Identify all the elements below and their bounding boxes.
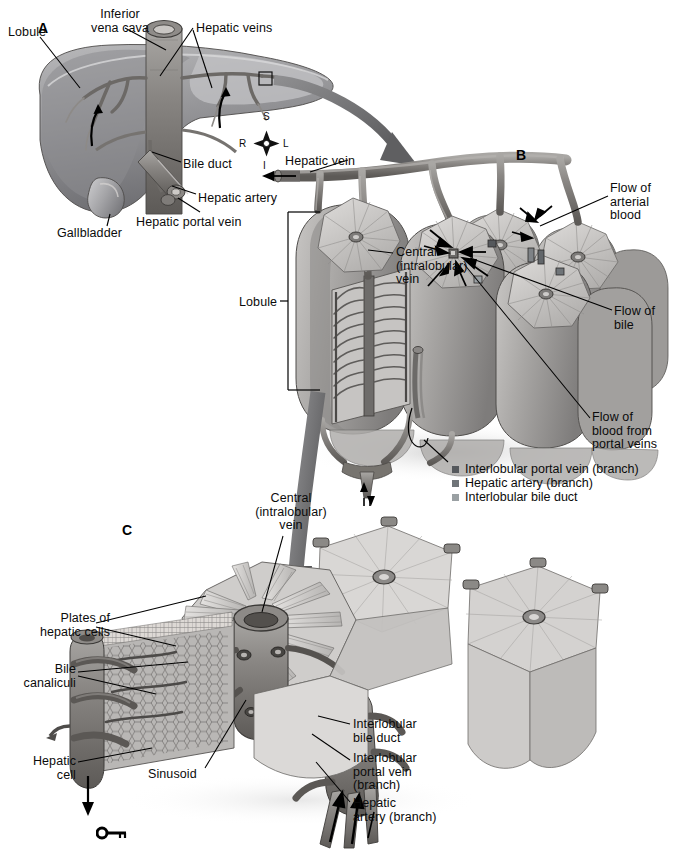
liver-structure-figure: A B C Lobule Inferior vena cava Hepatic … <box>0 0 689 855</box>
label-sinusoid: Sinusoid <box>148 768 197 782</box>
panel-a-liver-illustration <box>39 21 333 227</box>
label-lobule-b: Lobule <box>239 296 277 310</box>
label-flow-of-bile: Flow of bile <box>614 305 655 332</box>
label-hepatic-cell: Hepatic cell <box>0 755 76 782</box>
label-hepatic-artery-branch-c: Hepatic artery (branch) <box>353 797 436 824</box>
orientation-compass <box>254 131 280 157</box>
label-hepatic-vein-b: Hepatic vein <box>285 155 355 169</box>
label-hepatic-portal-vein: Hepatic portal vein <box>136 216 241 230</box>
legend-label-interlobular-portal-vein: Interlobular portal vein (branch) <box>465 462 639 476</box>
label-interlobular-bile-duct-c: Interlobular bile duct <box>353 718 417 745</box>
panel-label-c: C <box>122 522 132 538</box>
label-interlobular-portal-vein-c: Interlobular portal vein (branch) <box>353 752 417 793</box>
compass-left: L <box>283 137 289 151</box>
legend-item-hepatic-artery-branch: Hepatic artery (branch) <box>452 476 639 490</box>
compass-superior: S <box>263 110 270 124</box>
legend-swatch-interlobular-portal-vein <box>452 466 459 473</box>
legend-label-hepatic-artery-branch: Hepatic artery (branch) <box>465 476 593 490</box>
label-plates-of-hepatic-cells: Plates of hepatic cells <box>0 612 110 639</box>
diagram-artwork <box>0 0 689 855</box>
panel-c-lobule-detail-illustration <box>46 517 608 848</box>
vessel-type-legend: Interlobular portal vein (branch) Hepati… <box>452 462 639 504</box>
label-gallbladder: Gallbladder <box>57 227 122 241</box>
label-central-intralobular-vein-c: Central (intralobular) vein <box>243 492 339 533</box>
label-hepatic-artery: Hepatic artery <box>198 192 277 206</box>
compass-right: R <box>239 137 246 151</box>
label-lobule-a: Lobule <box>8 26 46 40</box>
legend-item-interlobular-portal-vein: Interlobular portal vein (branch) <box>452 462 639 476</box>
label-inferior-vena-cava: Inferior vena cava <box>70 8 170 35</box>
key-icon <box>96 826 130 840</box>
legend-item-interlobular-bile-duct: Interlobular bile duct <box>452 490 639 504</box>
label-bile-canaliculi: Bile canaliculi <box>0 663 76 690</box>
label-bile-duct: Bile duct <box>183 158 232 172</box>
legend-swatch-hepatic-artery-branch <box>452 480 459 487</box>
panel-b-lobules-illustration <box>262 155 668 506</box>
label-central-intralobular-vein-b: Central (intralobular) vein <box>396 246 468 287</box>
legend-swatch-interlobular-bile-duct <box>452 494 459 501</box>
panel-label-b: B <box>516 147 526 163</box>
label-flow-of-blood-portal-veins: Flow of blood from portal veins <box>592 411 657 452</box>
legend-label-interlobular-bile-duct: Interlobular bile duct <box>465 490 578 504</box>
compass-inferior: I <box>263 159 266 173</box>
label-hepatic-veins: Hepatic veins <box>196 22 272 36</box>
label-flow-of-arterial-blood: Flow of arterial blood <box>610 182 651 223</box>
